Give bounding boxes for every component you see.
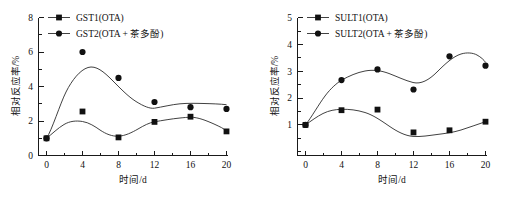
left-y-tick-label-4: 4 [28,82,33,92]
legend-circle-icon [56,30,62,36]
left-y-axis-title: 相对反应率/% [10,56,21,117]
right-y-tick-label-5: 5 [287,13,292,23]
left-x-tick-label-12: 12 [150,160,160,170]
chart-panel-left: 0 2 4 6 8 0 4 8 12 [0,0,255,200]
data-point [188,114,194,120]
legend-label-sult2: SULT2(OTA + 茶多酚) [335,28,427,40]
right-y-tick-label-2: 2 [287,93,292,103]
data-point [375,107,381,113]
legend-circle-icon [315,30,321,36]
right-x-tick-label-8: 8 [375,160,380,170]
right-x-axis-title: 时间/d [378,174,406,185]
left-legend: GST1(OTA) GST2(OTA + 茶多酚) [48,13,163,40]
right-y-tick-label-4: 4 [287,40,292,50]
right-y-tick-label-3: 3 [287,67,292,77]
legend-label-gst2: GST2(OTA + 茶多酚) [76,28,163,40]
data-point [338,77,344,83]
left-x-tick-label-8: 8 [116,160,121,170]
data-point [447,127,453,133]
legend-square-icon [56,15,62,21]
right-x-tick-label-12: 12 [409,160,419,170]
data-point [410,86,416,92]
data-point [483,119,489,125]
data-point [303,122,309,128]
figure-container: 0 2 4 6 8 0 4 8 12 [0,0,511,200]
right-legend: SULT1(OTA) SULT2(OTA + 茶多酚) [307,13,427,40]
data-point [374,66,380,72]
legend-label-gst1: GST1(OTA) [76,13,124,24]
right-x-ticks [306,151,486,156]
data-point [482,63,488,69]
left-y-tick-label-8: 8 [28,13,33,23]
data-point [446,53,452,59]
right-curve-sult1 [306,109,486,136]
data-point [151,99,157,105]
data-point [79,49,85,55]
chart-panel-right: 1 2 3 4 5 0 4 8 12 [255,0,510,200]
left-x-tick-label-0: 0 [44,160,49,170]
right-x-tick-label-16: 16 [445,160,455,170]
left-curve-gst2 [47,67,227,138]
left-y-tick-label-2: 2 [28,116,33,126]
right-x-tick-label-0: 0 [303,160,308,170]
data-point [115,75,121,81]
legend-label-sult1: SULT1(OTA) [335,13,388,24]
left-x-axis-title: 时间/d [119,174,147,185]
right-curve-sult2 [306,53,486,125]
left-curve-gst1 [47,117,227,138]
right-series-sult2-markers [302,53,488,128]
left-y-tick-label-0: 0 [28,151,33,161]
legend-square-icon [315,15,321,21]
data-point [339,107,345,113]
left-x-tick-label-16: 16 [186,160,196,170]
left-y-ticks [39,18,44,156]
right-y-tick-label-1: 1 [287,120,292,130]
left-series-gst1-markers [44,109,230,142]
left-series-gst2-markers [43,49,229,141]
data-point [80,109,86,115]
right-y-axis-title: 相对反应率/% [269,56,280,117]
right-chart-svg: 1 2 3 4 5 0 4 8 12 [255,0,511,200]
right-x-tick-label-20: 20 [481,160,491,170]
left-y-tick-label-6: 6 [28,47,33,57]
data-point [224,129,230,135]
data-point [116,135,122,141]
right-y-ticks [298,18,303,152]
left-chart-svg: 0 2 4 6 8 0 4 8 12 [0,0,255,200]
data-point [187,104,193,110]
left-x-ticks [47,151,227,156]
data-point [152,119,158,125]
left-x-tick-label-20: 20 [222,160,232,170]
data-point [411,130,417,136]
data-point [223,106,229,112]
data-point [44,135,50,141]
right-x-tick-label-4: 4 [339,160,344,170]
left-x-tick-label-4: 4 [80,160,85,170]
